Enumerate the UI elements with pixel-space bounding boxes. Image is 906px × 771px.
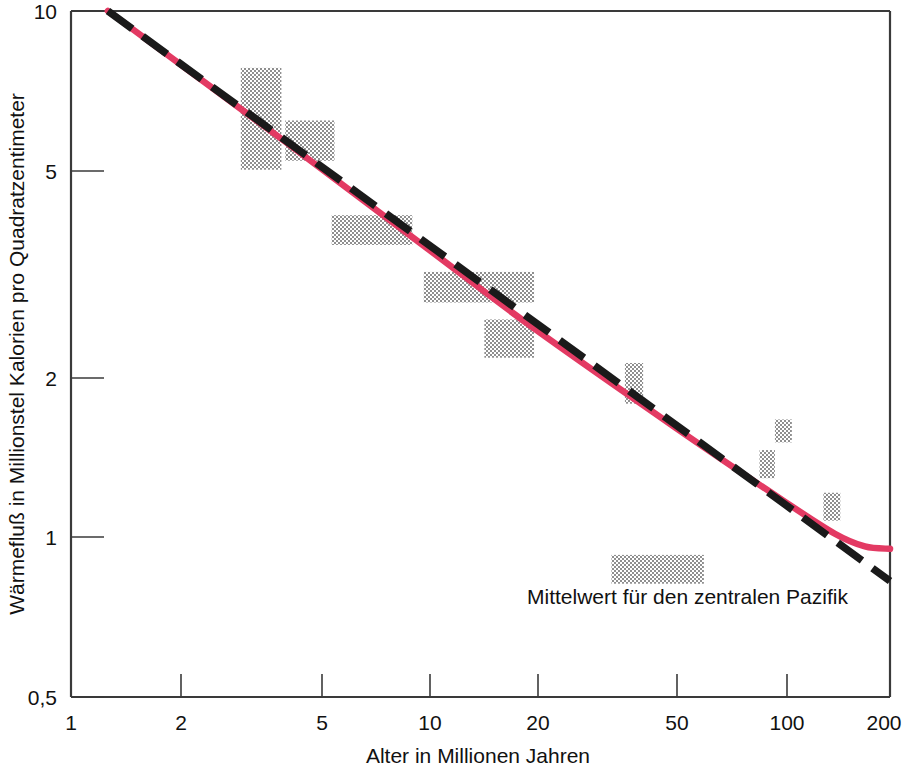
x-tick-label-1: 1 — [65, 711, 77, 734]
data-box — [760, 450, 775, 478]
y-tick-label-2: 2 — [45, 367, 57, 390]
y-tick-label-5: 5 — [45, 160, 57, 183]
y-axis-ticks — [71, 11, 104, 697]
data-box — [285, 120, 334, 160]
y-tick-labels: 10 5 2 1 0,5 — [28, 0, 57, 709]
x-tick-label-5: 5 — [316, 711, 328, 734]
x-tick-label-2: 2 — [175, 711, 187, 734]
x-axis-title: Alter in Millionen Jahren — [366, 744, 590, 767]
x-tick-label-200: 200 — [866, 711, 901, 734]
x-tick-label-10: 10 — [418, 711, 441, 734]
data-box — [823, 493, 840, 521]
x-tick-labels: 1 2 5 10 20 50 100 200 — [65, 711, 901, 734]
x-tick-label-100: 100 — [769, 711, 804, 734]
chart-figure: 10 5 2 1 0,5 1 2 5 10 20 50 100 200 — [0, 0, 906, 771]
y-tick-label-10: 10 — [34, 0, 57, 23]
heat-flow-vs-age-chart: 10 5 2 1 0,5 1 2 5 10 20 50 100 200 — [0, 0, 906, 771]
y-tick-label-05: 0,5 — [28, 686, 57, 709]
x-tick-label-20: 20 — [526, 711, 549, 734]
x-axis-ticks — [71, 674, 890, 697]
annotation-central-pacific: Mittelwert für den zentralen Pazifik — [527, 585, 848, 608]
data-box — [775, 419, 792, 442]
data-box — [611, 555, 703, 584]
sqrt-age-dashed-line — [108, 11, 890, 581]
y-axis-title: Wärmefluß in Millionstel Kalorien pro Qu… — [5, 93, 28, 615]
x-tick-label-50: 50 — [665, 711, 688, 734]
y-tick-label-1: 1 — [45, 526, 57, 549]
